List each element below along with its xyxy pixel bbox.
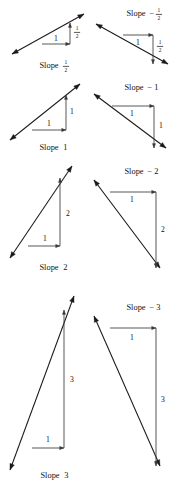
rise-label: 1 xyxy=(159,121,163,130)
slope-caption: Slope1 xyxy=(39,143,67,152)
slope-caption: Slope−1 xyxy=(124,83,158,92)
slope-line xyxy=(94,94,166,148)
run-leg-arrow xyxy=(150,104,154,107)
slope-panel-slope-neg-one: 11Slope−1 xyxy=(88,78,171,154)
slope-caption-sign: − xyxy=(148,83,153,92)
slope-caption-word: Slope xyxy=(39,143,58,152)
slope-caption: Slope−12 xyxy=(126,7,162,21)
rise-leg-arrow xyxy=(151,60,154,64)
slope-line-arrow-start xyxy=(96,24,103,29)
rise-label: 3 xyxy=(70,375,74,384)
rise-leg-arrow xyxy=(152,144,155,148)
slope-caption-value: 1 xyxy=(63,143,67,152)
slope-line-arrow-start xyxy=(12,49,19,54)
rise-leg-arrow xyxy=(68,23,71,27)
slope-line-arrow-start xyxy=(10,252,15,258)
run-label: 1 xyxy=(130,109,134,118)
slope-panel-slope-neg-two: 12Slope−2 xyxy=(88,158,171,274)
slope-line-arrow-end xyxy=(77,14,84,19)
slope-line xyxy=(94,316,160,466)
rise-label: 1 xyxy=(70,107,74,116)
rise-label: 3 xyxy=(161,395,165,404)
slope-caption-value: 2 xyxy=(154,167,158,176)
slope-figure: 112Slope12112Slope−1211Slope111Slope−112… xyxy=(0,0,171,494)
slope-line-arrow-start xyxy=(94,316,99,323)
rise-leg-arrow xyxy=(154,462,157,466)
slope-line xyxy=(94,180,160,268)
slope-panel-slope-one-half: 112Slope12 xyxy=(2,2,90,74)
slope-caption-value: 12 xyxy=(63,59,69,73)
slope-line-arrow-end xyxy=(67,166,72,172)
run-leg-arrow xyxy=(66,42,70,45)
slope-caption-value: 1 xyxy=(154,83,158,92)
run-label: 1 xyxy=(43,234,47,243)
run-label: 1 xyxy=(46,435,50,444)
run-label: 1 xyxy=(136,38,140,47)
slope-line xyxy=(12,14,84,54)
slope-caption-value: 3 xyxy=(64,471,68,480)
rise-leg-arrow xyxy=(58,178,61,182)
slope-caption-sign: − xyxy=(150,303,155,312)
slope-panel-slope-two: 12Slope2 xyxy=(2,158,90,274)
slope-line-arrow-start xyxy=(94,180,100,186)
run-label: 1 xyxy=(47,119,51,128)
slope-caption: Slope12 xyxy=(39,59,69,73)
run-leg-arrow xyxy=(149,33,153,36)
slope-line-arrow-end xyxy=(161,59,168,64)
slope-caption-word: Slope xyxy=(40,471,59,480)
rise-label: 2 xyxy=(66,209,70,218)
run-label: 1 xyxy=(130,195,134,204)
slope-caption-value: 3 xyxy=(156,303,160,312)
slope-caption-word: Slope xyxy=(124,167,143,176)
run-leg-arrow xyxy=(62,128,66,131)
slope-caption: Slope3 xyxy=(40,471,68,480)
slope-line-arrow-end xyxy=(70,296,74,303)
slope-caption: Slope−3 xyxy=(126,303,160,312)
slope-caption-word: Slope xyxy=(124,83,143,92)
svg-text:1: 1 xyxy=(65,59,68,65)
svg-text:1: 1 xyxy=(158,7,161,13)
slope-line-arrow-end xyxy=(160,142,166,148)
slope-panel-slope-one: 11Slope1 xyxy=(2,78,90,154)
run-leg-arrow xyxy=(60,446,64,449)
slope-caption-word: Slope xyxy=(39,61,58,70)
run-leg-arrow xyxy=(152,190,156,193)
svg-text:2: 2 xyxy=(159,47,162,53)
slope-caption-word: Slope xyxy=(126,303,145,312)
run-label: 1 xyxy=(130,333,134,342)
run-leg-arrow xyxy=(56,244,60,247)
slope-caption-sign: − xyxy=(148,167,153,176)
slope-panel-slope-three: 13Slope3 xyxy=(2,288,90,488)
svg-text:2: 2 xyxy=(65,67,68,73)
slope-caption-value: 12 xyxy=(156,7,162,21)
run-leg-arrow xyxy=(152,326,156,329)
svg-text:1: 1 xyxy=(159,39,162,45)
slope-panel-slope-neg-one-half: 112Slope−12 xyxy=(88,2,171,74)
svg-text:2: 2 xyxy=(76,33,79,39)
slope-caption-sign: − xyxy=(150,9,155,18)
slope-caption-word: Slope xyxy=(126,9,145,18)
slope-caption-value: 2 xyxy=(63,263,67,272)
slope-caption: Slope2 xyxy=(39,263,67,272)
slope-line xyxy=(96,24,168,64)
run-label: 1 xyxy=(54,34,58,43)
slope-line-arrow-start xyxy=(94,94,100,100)
slope-caption: Slope−2 xyxy=(124,167,158,176)
slope-caption-word: Slope xyxy=(39,263,58,272)
rise-label: 12 xyxy=(74,25,80,39)
slope-line-arrow-start xyxy=(10,463,14,470)
svg-text:1: 1 xyxy=(76,25,79,31)
rise-leg-arrow xyxy=(62,310,65,314)
slope-panel-slope-neg-three: 13Slope−3 xyxy=(88,288,171,488)
svg-text:2: 2 xyxy=(158,15,161,21)
slope-line xyxy=(10,166,72,258)
rise-label: 2 xyxy=(161,225,165,234)
rise-label: 12 xyxy=(157,39,163,53)
